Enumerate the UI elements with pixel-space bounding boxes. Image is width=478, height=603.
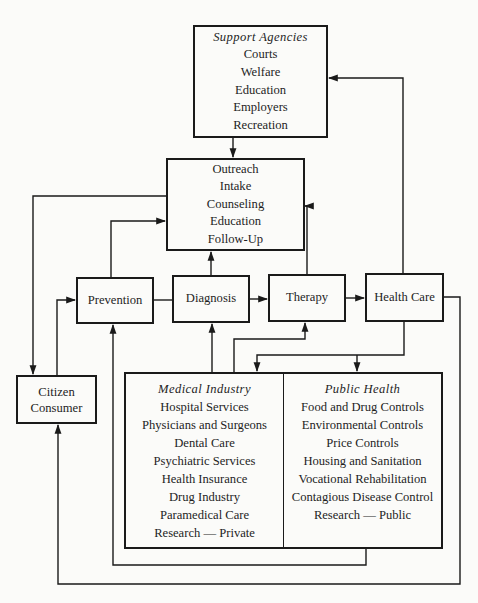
public-health-section: Public Health Food and Drug Controls Env…: [284, 374, 441, 547]
prevention-box: Prevention: [76, 277, 154, 324]
medical-item: Dental Care: [174, 434, 235, 452]
medical-item: Physicians and Surgeons: [142, 416, 267, 434]
service-item: Follow-Up: [208, 231, 263, 249]
medical-item: Health Insurance: [162, 470, 248, 488]
service-item: Outreach: [212, 161, 258, 179]
public-health-title: Public Health: [325, 380, 401, 398]
public-item: Contagious Disease Control: [292, 488, 433, 506]
line-therapy-up: [306, 206, 307, 274]
medical-item: Research — Private: [154, 524, 255, 542]
arrow-medical-to-therapy: [234, 323, 305, 372]
citizen-consumer-box: Citizen Consumer: [16, 375, 97, 424]
service-item: Counseling: [207, 196, 264, 214]
support-agencies-title: Support Agencies: [213, 29, 308, 47]
medical-item: Paramedical Care: [160, 506, 249, 524]
public-item: Research — Public: [314, 506, 411, 524]
arrow-citizen-to-prevention: [57, 300, 75, 375]
therapy-label: Therapy: [286, 289, 328, 307]
public-item: Price Controls: [326, 434, 398, 452]
support-item: Recreation: [233, 117, 288, 135]
public-item: Food and Drug Controls: [301, 398, 424, 416]
medical-item: Hospital Services: [160, 398, 249, 416]
medical-item: Psychiatric Services: [154, 452, 256, 470]
services-box: Outreach Intake Counseling Education Fol…: [166, 158, 305, 251]
diagnosis-label: Diagnosis: [186, 290, 236, 308]
arrow-prevention-to-services: [111, 221, 165, 277]
support-item: Courts: [244, 46, 278, 64]
support-agencies-box: Support Agencies Courts Welfare Educatio…: [193, 25, 328, 138]
medical-industry-title: Medical Industry: [158, 380, 251, 398]
health-care-box: Health Care: [365, 273, 444, 322]
health-care-label: Health Care: [374, 289, 435, 307]
public-item: Vocational Rehabilitation: [298, 470, 426, 488]
support-item: Education: [235, 82, 286, 100]
consumer-label: Consumer: [31, 400, 83, 416]
public-item: Housing and Sanitation: [303, 452, 421, 470]
diagnosis-box: Diagnosis: [172, 275, 250, 323]
support-item: Welfare: [241, 64, 281, 82]
arrow-healthcare-to-medical: [257, 322, 404, 371]
industry-public-health-box: Medical Industry Hospital Services Physi…: [124, 372, 443, 549]
prevention-label: Prevention: [88, 292, 143, 310]
medical-industry-section: Medical Industry Hospital Services Physi…: [126, 374, 284, 547]
medical-item: Drug Industry: [169, 488, 240, 506]
service-item: Intake: [220, 178, 251, 196]
therapy-box: Therapy: [268, 274, 346, 322]
public-item: Environmental Controls: [302, 416, 423, 434]
arrow-healthcare-to-support: [329, 78, 403, 273]
citizen-label: Citizen: [38, 384, 74, 400]
support-item: Employers: [233, 99, 288, 117]
service-item: Education: [210, 213, 261, 231]
